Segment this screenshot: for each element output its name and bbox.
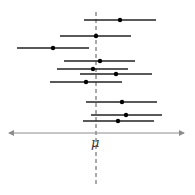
mu-label: μ xyxy=(91,136,99,149)
point-estimate-dot xyxy=(120,100,124,104)
point-estimate-dot xyxy=(94,34,98,38)
point-estimate-dot xyxy=(84,80,88,84)
point-estimate-dot xyxy=(114,72,118,76)
point-estimate-dot xyxy=(91,67,95,71)
point-estimate-dot xyxy=(116,119,120,123)
point-estimate-dot xyxy=(124,113,128,117)
interval-group xyxy=(17,18,162,123)
point-estimate-dot xyxy=(51,46,55,50)
point-estimate-dot xyxy=(118,18,122,22)
point-estimate-dot xyxy=(98,59,102,63)
confidence-interval-diagram xyxy=(0,0,195,195)
